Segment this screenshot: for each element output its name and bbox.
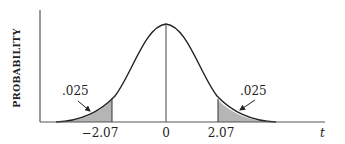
- x-tick-right: 2.07: [208, 126, 235, 140]
- right-annotation-arrow: [240, 100, 255, 110]
- right-tail-shaded-region: [218, 100, 272, 122]
- right-tail-annotation: .025: [240, 84, 267, 98]
- left-tail-annotation: .025: [62, 84, 89, 98]
- left-annotation-arrow: [78, 101, 90, 111]
- x-axis-variable: t: [320, 126, 325, 140]
- x-tick-center: 0: [162, 126, 170, 140]
- x-tick-left: −2.07: [82, 126, 119, 140]
- left-tail-shaded-region: [60, 100, 112, 122]
- y-axis-label: PROBABILITY: [11, 28, 22, 107]
- chart-canvas: [0, 0, 345, 144]
